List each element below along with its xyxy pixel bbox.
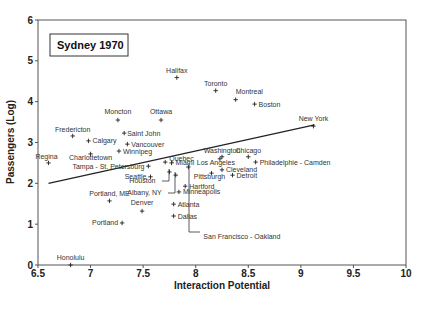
point-label: Moncton xyxy=(104,108,131,115)
data-point: Winnipeg xyxy=(117,148,152,156)
data-point: Fredericton xyxy=(55,126,91,138)
point-label: Pittsburgh xyxy=(194,173,226,181)
y-tick-label: 1 xyxy=(27,219,33,230)
y-tick-label: 3 xyxy=(27,137,33,148)
x-tick-label: 8 xyxy=(193,268,199,279)
y-axis-title: Passengers (Log) xyxy=(5,100,16,184)
point-label: Denver xyxy=(131,199,154,206)
plus-marker-icon xyxy=(177,190,181,194)
x-tick-label: 10 xyxy=(400,268,412,279)
plus-marker-icon xyxy=(159,118,163,122)
data-point: Denver xyxy=(131,199,154,213)
y-axis: 0123456 xyxy=(27,15,38,271)
plus-marker-icon xyxy=(146,164,150,168)
data-point: Portland, ME xyxy=(89,190,130,203)
plus-marker-icon xyxy=(253,160,257,164)
plus-marker-icon xyxy=(171,202,175,206)
plus-marker-icon xyxy=(70,134,74,138)
x-tick-label: 9 xyxy=(298,268,304,279)
point-label: Halifax xyxy=(166,67,188,74)
plus-marker-icon xyxy=(167,170,171,174)
data-point: Ottawa xyxy=(150,108,172,122)
plus-marker-icon xyxy=(68,263,72,267)
x-axis-title: Interaction Potential xyxy=(174,280,270,291)
data-point: Calgary xyxy=(86,137,117,145)
plus-marker-icon xyxy=(246,155,250,159)
plus-marker-icon xyxy=(86,139,90,143)
plus-marker-icon xyxy=(125,142,129,146)
plus-marker-icon xyxy=(163,160,167,164)
point-label: Honolulu xyxy=(57,254,85,261)
point-label: Houston xyxy=(129,177,155,184)
data-point: Toronto xyxy=(204,80,227,93)
data-point: Pittsburgh xyxy=(194,171,226,181)
scatter-chart: 0123456 6.577.588.599.510 Interaction Po… xyxy=(0,0,426,309)
point-label: Tampa - St. Petersburg xyxy=(72,163,144,171)
data-point: Minneapolis xyxy=(177,188,221,196)
plus-marker-icon xyxy=(311,124,315,128)
y-tick-label: 6 xyxy=(27,15,33,26)
data-point: Charlottetown xyxy=(69,152,112,161)
plus-marker-icon xyxy=(107,199,111,203)
x-tick-label: 7.5 xyxy=(136,268,150,279)
y-tick-label: 4 xyxy=(27,96,33,107)
point-label: Miami xyxy=(176,159,195,166)
plus-marker-icon xyxy=(116,118,120,122)
plus-marker-icon xyxy=(220,168,224,172)
y-tick-label: 5 xyxy=(27,55,33,66)
data-point: Tampa - St. Petersburg xyxy=(72,163,150,171)
data-point: Regina xyxy=(35,153,57,165)
point-label: Calgary xyxy=(92,137,117,145)
plus-marker-icon xyxy=(122,131,126,135)
data-point: Chicago xyxy=(235,147,261,159)
data-point: Dallas xyxy=(171,213,197,220)
data-point: Houston xyxy=(129,170,171,184)
data-point: Philadelphie - Camden xyxy=(253,159,330,167)
data-points: HalifaxTorontoMontrealBostonNew YorkMonc… xyxy=(35,67,330,268)
plus-marker-icon xyxy=(213,88,217,92)
point-label: Atlanta xyxy=(178,201,200,208)
data-point: Halifax xyxy=(166,67,188,80)
point-label: Minneapolis xyxy=(183,188,221,196)
point-label: Detroit xyxy=(237,172,258,179)
point-label: Chicago xyxy=(235,147,261,155)
plus-marker-icon xyxy=(252,102,256,106)
point-label: Fredericton xyxy=(55,126,91,133)
y-tick-label: 2 xyxy=(27,178,33,189)
point-label: Saint John xyxy=(127,130,160,137)
plus-marker-icon xyxy=(140,209,144,213)
point-label: Winnipeg xyxy=(123,148,152,156)
plus-marker-icon xyxy=(171,214,175,218)
point-label: Philadelphie - Camden xyxy=(260,159,331,167)
point-label: San Francisco - Oakland xyxy=(203,233,280,240)
point-label: Regina xyxy=(35,153,57,161)
plus-marker-icon xyxy=(120,221,124,225)
data-point: Portland xyxy=(92,219,124,226)
data-point: Los Angeles xyxy=(197,157,236,167)
point-label: Montreal xyxy=(236,88,264,95)
data-point: Atlanta xyxy=(171,201,199,208)
point-label: Portland xyxy=(92,219,118,226)
chart-title: Sydney 1970 xyxy=(57,39,124,51)
plus-marker-icon xyxy=(117,149,121,153)
point-label: Albany, NY xyxy=(127,189,162,197)
plus-marker-icon xyxy=(233,97,237,101)
point-label: Dallas xyxy=(178,213,198,220)
point-label: Toronto xyxy=(204,80,227,87)
x-tick-label: 7 xyxy=(88,268,94,279)
x-tick-label: 9.5 xyxy=(346,268,360,279)
x-axis: 6.577.588.599.510 xyxy=(31,265,412,279)
point-label: Boston xyxy=(259,101,281,108)
plus-marker-icon xyxy=(175,75,179,79)
point-label: Charlottetown xyxy=(69,154,112,161)
x-tick-label: 6.5 xyxy=(31,268,45,279)
point-label: Portland, ME xyxy=(89,190,130,197)
plus-marker-icon xyxy=(174,173,178,177)
x-tick-label: 8.5 xyxy=(241,268,255,279)
data-point: Moncton xyxy=(104,108,131,122)
plus-marker-icon xyxy=(46,161,50,165)
point-label: Ottawa xyxy=(150,108,172,115)
point-label: New York xyxy=(299,115,329,122)
plus-marker-icon xyxy=(230,173,234,177)
data-point: New York xyxy=(299,115,329,128)
